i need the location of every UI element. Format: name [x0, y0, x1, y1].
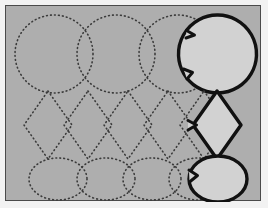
guide-circle	[77, 15, 155, 93]
circle-row	[15, 15, 257, 93]
solid-circle	[178, 15, 256, 93]
solid-oval	[189, 156, 247, 202]
solid-diamond	[193, 91, 241, 159]
guide-oval	[29, 158, 87, 200]
guide-circle	[15, 15, 93, 93]
guide-oval	[123, 158, 181, 200]
shapes-svg	[6, 6, 262, 202]
drawing-canvas	[6, 6, 262, 202]
oval-row	[29, 156, 247, 202]
guide-oval	[77, 158, 135, 200]
worksheet-page: Shape Tracing Practice	[0, 0, 268, 208]
diamond-row	[24, 91, 241, 159]
